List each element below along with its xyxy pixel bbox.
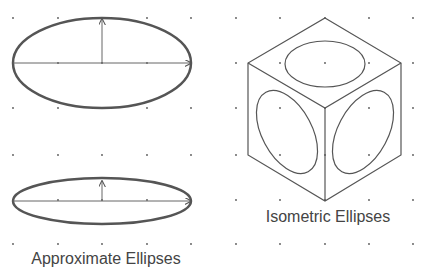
grid-dot — [324, 243, 326, 245]
isometric-cube — [244, 18, 406, 201]
grid-dot — [235, 199, 237, 201]
grid-dot — [146, 243, 148, 245]
left-face-ellipse — [244, 81, 330, 184]
grid-dot — [412, 199, 414, 201]
grid-dot — [190, 107, 192, 109]
grid-dot — [12, 243, 14, 245]
isometric-ellipses-label: Isometric Ellipses — [266, 208, 390, 225]
grid-dot — [279, 154, 281, 156]
grid-dot — [57, 154, 59, 156]
grid-dot — [57, 17, 59, 19]
top-face-ellipse — [285, 41, 365, 87]
grid-dot — [279, 243, 281, 245]
grid-dot — [412, 62, 414, 64]
grid-dot — [368, 199, 370, 201]
grid-dot — [412, 154, 414, 156]
grid-dot — [190, 17, 192, 19]
grid-dot — [101, 243, 103, 245]
ellipse-diagram: Isometric Ellipses Approximate Ellipses — [0, 0, 437, 268]
approximate-ellipses-label: Approximate Ellipses — [31, 250, 180, 267]
grid-dot — [368, 154, 370, 156]
grid-dot — [12, 107, 14, 109]
grid-dot — [57, 243, 59, 245]
grid-dot — [368, 107, 370, 109]
grid-dot — [146, 17, 148, 19]
grid-dot — [279, 62, 281, 64]
grid-dot — [235, 243, 237, 245]
grid-dot — [368, 243, 370, 245]
grid-dot — [368, 17, 370, 19]
grid-dot — [279, 199, 281, 201]
grid-dot — [57, 107, 59, 109]
grid-dot — [412, 17, 414, 19]
grid-dot — [412, 107, 414, 109]
grid-dot — [190, 154, 192, 156]
grid-dot — [235, 107, 237, 109]
grid-dot — [12, 154, 14, 156]
grid-dot — [412, 243, 414, 245]
cube-inner-edges — [248, 63, 401, 108]
grid-dot — [279, 17, 281, 19]
grid-dot — [368, 62, 370, 64]
right-face-ellipse — [320, 81, 406, 184]
approximate-ellipse-narrow — [13, 178, 191, 224]
grid-dot — [146, 107, 148, 109]
grid-dot — [235, 154, 237, 156]
grid-dot — [279, 107, 281, 109]
grid-dot — [324, 62, 326, 64]
grid-dot — [235, 62, 237, 64]
approximate-ellipse-large — [13, 18, 191, 108]
grid-dot — [101, 154, 103, 156]
grid-dot — [190, 243, 192, 245]
grid-dot — [235, 17, 237, 19]
grid-dot — [12, 17, 14, 19]
grid-dot — [146, 154, 148, 156]
